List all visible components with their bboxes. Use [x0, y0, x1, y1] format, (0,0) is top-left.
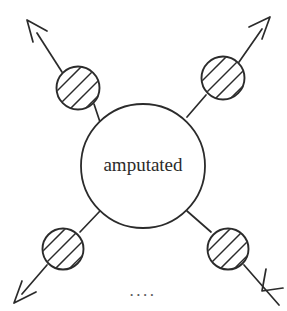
blob-bottom-right-outline: [208, 229, 249, 270]
arrow-down-left-icon: [14, 281, 36, 303]
diagram-canvas: amputated: [0, 0, 287, 311]
blob-top-right-outline: [202, 57, 245, 100]
leg-top-left-outer-segment: [37, 33, 62, 72]
blob-bottom-right: [201, 228, 253, 277]
amputated-diagram: amputated: [0, 0, 287, 311]
leg-bottom-left-outer-segment: [22, 265, 47, 294]
leg-bottom-right-inner-segment: [187, 211, 211, 232]
blob-bottom-left-outline: [43, 229, 84, 270]
arrow-up-left-icon: [27, 20, 47, 42]
arrow-up-right-icon: [249, 17, 270, 39]
arrow-down-right-icon: [262, 269, 283, 291]
leg-bottom-right-outer-segment: [244, 265, 279, 305]
leg-top-right-outer-segment: [239, 29, 262, 62]
ellipsis-label: ....: [130, 281, 157, 300]
blob-top-left-outline: [57, 67, 100, 110]
leg-bottom-left-inner-segment: [80, 211, 100, 232]
center-blob-label: amputated: [103, 154, 183, 175]
leg-top-left-inner-segment: [94, 104, 100, 122]
center-blob: amputated: [81, 104, 205, 228]
leg-top-right-inner-segment: [187, 95, 206, 117]
blob-top-right: [195, 56, 249, 108]
